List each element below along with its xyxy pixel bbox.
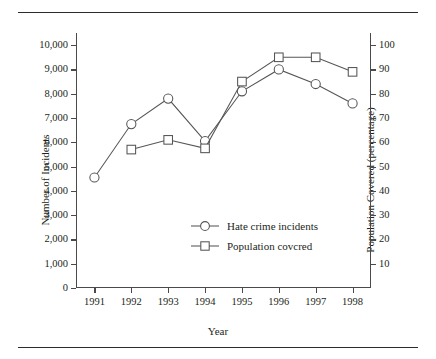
x-axis-tick [279,288,280,293]
x-axis-tick [94,288,95,293]
x-axis-tick [353,288,354,293]
y-axis-left-tick-label: 9,000 [44,64,68,75]
x-axis-tick-label: 1996 [268,297,289,308]
square-marker-icon [201,144,210,153]
bottom-horizontal-rule [18,347,418,348]
y-axis-left-tick-label: 7,000 [44,113,68,124]
figure-container: Number of Incidents Population Covered (… [0,0,436,359]
y-axis-right-tick-label: 30 [379,210,390,221]
y-axis-left-tick-label: 3,000 [44,210,68,221]
x-axis-tick [131,288,132,293]
circle-marker-icon [90,173,99,182]
legend-item: Hate crime incidents [190,216,318,236]
circle-marker-icon [274,65,283,74]
y-axis-left-tick-label: 2,000 [44,234,68,245]
y-axis-right-tick [371,142,376,143]
y-axis-right-tick [371,167,376,168]
y-axis-left-tick-label: 5,000 [44,161,68,172]
y-axis-right-tick [371,215,376,216]
x-axis-tick-label: 1995 [231,297,252,308]
y-axis-right-tick-label: 80 [379,88,390,99]
x-axis-tick [242,288,243,293]
y-axis-right-tick-label: 50 [379,161,390,172]
square-marker-icon [190,239,220,253]
square-marker-icon [311,53,320,62]
x-axis-tick [205,288,206,293]
x-axis-tick-label: 1998 [342,297,363,308]
y-axis-right-tick [371,264,376,265]
chart-legend: Hate crime incidents Population covcred [190,216,318,256]
y-axis-right-tick [371,45,376,46]
y-axis-right-tick [371,94,376,95]
legend-item-label: Hate crime incidents [227,220,318,232]
square-marker-icon [127,145,136,154]
x-axis-tick-label: 1992 [121,297,142,308]
x-axis-tick-label: 1993 [158,297,179,308]
square-marker-icon [164,136,173,145]
y-axis-left-tick-label: 1,000 [44,258,68,269]
y-axis-right-tick [371,118,376,119]
y-axis-right-tick-label: 90 [379,64,390,75]
circle-marker-icon [348,99,357,108]
y-axis-left-tick-label: 6,000 [44,137,68,148]
x-axis-tick-label: 1997 [305,297,326,308]
x-axis-title: Year [0,325,436,337]
top-horizontal-rule [18,12,418,13]
y-axis-left-tick [71,288,76,289]
y-axis-left-tick-label: 8,000 [44,88,68,99]
circle-marker-icon [311,79,320,88]
y-axis-right-tick [371,239,376,240]
legend-item: Population covcred [190,236,318,256]
legend-item-label: Population covcred [227,240,312,252]
square-marker-icon [348,68,357,77]
x-axis-tick-label: 1994 [195,297,216,308]
y-axis-right-tick-label: 20 [379,234,390,245]
square-marker-icon [275,53,284,62]
x-axis-tick [168,288,169,293]
y-axis-right-tick-label: 70 [379,113,390,124]
y-axis-right-tick [371,191,376,192]
y-axis-right-tick-label: 10 [379,258,390,269]
circle-marker-icon [127,119,136,128]
y-axis-right-tick [371,69,376,70]
circle-marker-icon [190,219,220,233]
circle-marker-icon [164,94,173,103]
y-axis-right-tick-label: 100 [379,40,395,51]
y-axis-right-tick-label: 40 [379,186,390,197]
plot-area: 01,0002,0003,0004,0005,0006,0007,0008,00… [76,33,371,288]
x-axis-tick-label: 1991 [84,297,105,308]
x-axis-tick [316,288,317,293]
y-axis-left-tick-label: 10,000 [39,40,68,51]
y-axis-left-tick-label: 4,000 [44,186,68,197]
y-axis-left-tick-label: 0 [63,283,68,294]
square-marker-icon [238,77,247,86]
y-axis-right-tick-label: 60 [379,137,390,148]
